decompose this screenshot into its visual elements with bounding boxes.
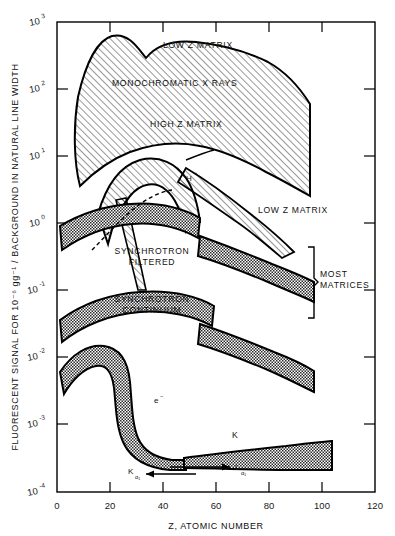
l-alpha-label: L <box>235 463 240 472</box>
annotation-synchrotron-continuum-line2: CONTINUUM <box>123 305 182 315</box>
annotation-low-z-matrix-mid: LOW Z MATRIX <box>258 205 328 215</box>
y-tick-mantissa: 10 <box>26 283 39 296</box>
k-alpha-label: K <box>128 467 134 476</box>
annotation-proton: H <box>186 174 192 183</box>
x-axis-title: Z, ATOMIC NUMBER <box>168 521 263 531</box>
proton-mass-number: 1 <box>182 171 185 177</box>
k-alpha-subscript: α₁ <box>135 474 140 480</box>
x-tick-label: 80 <box>264 500 275 511</box>
x-tick-label: 40 <box>158 500 169 511</box>
x-tick-label: 100 <box>314 500 330 511</box>
annotation-monochromatic-x-rays: MONOCHROMATIC X RAYS <box>112 78 237 88</box>
chart-svg: 10 3 10 2 10 1 10 0 10 -1 10 -2 10 -3 10 <box>0 0 395 536</box>
x-tick-label: 0 <box>54 500 59 511</box>
y-axis-title: FLUORESCENT SIGNAL FOR 10⁻⁶ gg⁻¹ / BACKG… <box>10 64 20 451</box>
fluorescence-chart-figure: 10 3 10 2 10 1 10 0 10 -1 10 -2 10 -3 10 <box>0 0 395 536</box>
x-tick-label: 20 <box>105 500 116 511</box>
annotation-most-matrices-line1: MOST <box>320 269 348 279</box>
x-tick-label: 120 <box>367 500 383 511</box>
annotation-synchrotron-continuum-line1: SYNCHROTRON <box>114 294 189 304</box>
electron-charge: − <box>160 393 163 399</box>
y-axis-title-group: FLUORESCENT SIGNAL FOR 10⁻⁶ gg⁻¹ / BACKG… <box>10 64 20 451</box>
l-alpha-subscript: α₁ <box>241 470 246 476</box>
y-tick-mantissa: 10 <box>28 149 41 162</box>
annotation-electron: e <box>154 396 159 405</box>
annotation-low-z-matrix-top: LOW Z MATRIX <box>163 40 233 50</box>
y-tick-mantissa: 10 <box>28 216 41 229</box>
y-tick-mantissa: 10 <box>28 82 41 95</box>
proton-charge: + <box>194 170 197 176</box>
y-tick-mantissa: 10 <box>28 15 41 28</box>
y-tick-mantissa: 10 <box>26 485 39 498</box>
annotation-most-matrices-line2: MATRICES <box>320 280 369 290</box>
x-tick-label: 60 <box>211 500 222 511</box>
annotation-high-z-matrix: HIGH Z MATRIX <box>150 119 222 129</box>
annotation-matrix-equals-z: K <box>232 430 238 440</box>
annotation-synchrotron-filtered-line1: SYNCHROTRON <box>114 246 189 256</box>
y-tick-mantissa: 10 <box>26 417 39 430</box>
annotation-synchrotron-filtered-line2: FILTERED <box>129 257 176 267</box>
y-tick-mantissa: 10 <box>26 350 39 363</box>
